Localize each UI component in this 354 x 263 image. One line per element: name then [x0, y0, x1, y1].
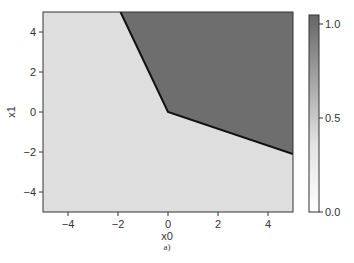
chart-root: −4−2024 −4−2024 x0 x1 a) 0.00.51.0: [0, 0, 354, 263]
x-axis-label: x0: [161, 230, 173, 242]
colorbar-tick-label: 0.0: [325, 206, 340, 218]
y-axis: −4−2024: [23, 26, 43, 198]
y-axis-label: x1: [5, 106, 17, 118]
colorbar-tick-label: 1.0: [325, 18, 340, 30]
x-tick-label: −4: [62, 218, 75, 230]
colorbar-tick-label: 0.5: [325, 112, 340, 124]
plot-area: [43, 12, 293, 212]
y-tick-label: 0: [30, 106, 36, 118]
y-tick-label: −4: [23, 186, 36, 198]
y-tick-label: 2: [30, 66, 36, 78]
figure-caption: a): [164, 242, 171, 252]
x-tick-label: −2: [112, 218, 125, 230]
y-tick-label: −2: [23, 146, 36, 158]
colorbar: 0.00.51.0: [309, 15, 340, 218]
colorbar-gradient: [309, 15, 319, 212]
colorbar-ticks: 0.00.51.0: [319, 18, 340, 218]
y-tick-label: 4: [30, 26, 36, 38]
x-tick-label: 2: [215, 218, 221, 230]
x-tick-label: 0: [165, 218, 171, 230]
x-tick-label: 4: [265, 218, 271, 230]
x-axis: −4−2024: [62, 212, 271, 230]
